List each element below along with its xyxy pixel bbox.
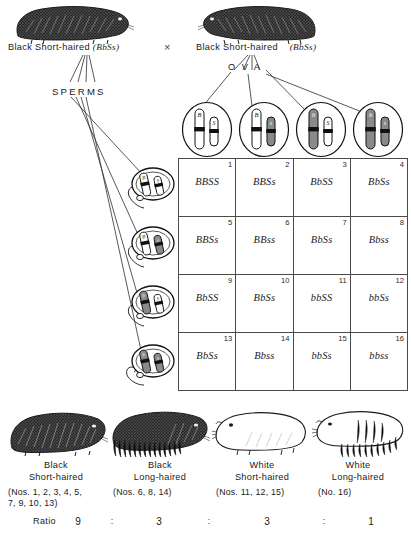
parent-male-label: Black Short-haired (BbSs) [8,42,119,53]
sperms-label: SPERMS [52,86,106,97]
punnett-cell[interactable]: 3BbSS [294,159,351,217]
cell-genotype: BbSS [179,292,235,303]
punnett-cell[interactable]: 10BbSs [236,275,293,333]
offspring-illustration-black-long-haired [108,406,210,462]
punnett-cell[interactable]: 11bbSS [294,275,351,333]
offspring-caption-black-long-haired: Black Long-haired [110,460,210,483]
punnett-cell[interactable]: 1BBSS [179,159,236,217]
punnett-cell[interactable]: 7BbSs [294,217,351,275]
offspring-hair: Long-haired [110,472,210,484]
cell-number: 3 [343,160,347,169]
offspring-caption-white-short-haired: White Short-haired [212,460,312,483]
ratio-row: Ratio 9 : 3 : 3 : 1 [0,516,411,532]
svg-text:B: B [198,111,202,118]
cell-genotype: BBSS [179,176,235,187]
chromosome-S: S [209,117,219,146]
parent-male-genotype: (BbSs) [93,42,120,52]
sperm-cell-2: B s [128,219,176,271]
cell-number: 6 [285,218,289,227]
cell-genotype: Bbss [351,234,407,245]
cell-number: 4 [400,160,404,169]
punnett-cell[interactable]: 15bbSs [294,333,351,391]
cell-genotype: BBss [236,234,292,245]
offspring-illustration-black-short-haired [6,406,108,462]
punnett-cell[interactable]: 5BBSs [179,217,236,275]
parent-female-label: Black Short-haired (BbSs) [196,42,316,53]
ratio-value-4: 1 [358,516,384,527]
cell-genotype: BbSs [351,176,407,187]
cell-genotype: bbss [351,350,407,361]
cell-genotype: BbSs [294,234,350,245]
chromosome-s: s [380,117,390,146]
svg-text:S: S [327,120,330,126]
offspring-caption-white-long-haired: White Long-haired [310,460,406,483]
chromosome-B: B [251,109,262,149]
offspring-coat: White [310,460,406,472]
ratio-value-3: 3 [254,516,280,527]
offspring-hair: Short-haired [8,472,104,484]
offspring-hair: Short-haired [212,472,312,484]
ratio-separator-2: : [203,516,215,526]
cell-number: 10 [281,276,289,285]
offspring-illustration-white-short-haired [212,406,312,462]
ova-cell-4: b s [352,101,404,158]
sperm-cell-1: B S [128,160,176,212]
punnett-cell[interactable]: 8Bbss [351,217,408,275]
ova-cell-2: B s [238,101,290,158]
cell-genotype: BbSs [179,350,235,361]
nos-line-2: 7, 9, 10, 13) [8,498,118,509]
ova-cell-3: b S [295,101,347,158]
cell-genotype: bbSS [294,292,350,303]
ratio-label: Ratio [33,516,56,526]
cell-number: 16 [396,334,404,343]
offspring-nos-white-long-haired: (No. 16) [318,487,351,498]
offspring-coat: White [212,460,312,472]
sperm-cell-3: b S [128,278,176,330]
chromosome-S: S [323,117,333,146]
offspring-nos-black-short-haired: (Nos. 1, 2, 3, 4, 5, 7, 9, 10, 13) [8,487,118,509]
offspring-nos-black-long-haired: (Nos. 6, 8, 14) [113,487,172,498]
ratio-value-1: 9 [65,516,91,527]
nos-line-1: (Nos. 1, 2, 3, 4, 5, [8,487,118,498]
chromosome-b: b [365,109,376,149]
punnett-cell[interactable]: 4BbSs [351,159,408,217]
ratio-value-2: 3 [146,516,172,527]
cell-genotype: BBSs [236,176,292,187]
sperm-cell-4: b s [128,337,176,389]
offspring-caption-black-short-haired: Black Short-haired [8,460,104,483]
cell-number: 15 [338,334,346,343]
cell-number: 7 [343,218,347,227]
genetics-punnett-diagram: Black Short-haired (BbSs) × Black Short-… [0,0,411,537]
cell-number: 8 [400,218,404,227]
punnett-cell[interactable]: 12bbSs [351,275,408,333]
punnett-cell[interactable]: 6BBss [236,217,293,275]
chromosome-B: B [194,109,205,149]
svg-text:S: S [213,120,216,126]
punnett-cell[interactable]: 13BbSs [179,333,236,391]
punnett-cell[interactable]: 2BBSs [236,159,293,217]
parent-male-phenotype: Black Short-haired [8,42,90,52]
cross-symbol: × [164,41,170,53]
punnett-cell[interactable]: 14Bbss [236,333,293,391]
cell-genotype: bbSs [351,292,407,303]
cell-genotype: bbSs [294,350,350,361]
cell-genotype: BbSS [294,176,350,187]
svg-text:B: B [255,111,259,118]
cell-number: 14 [281,334,289,343]
offspring-illustration-white-long-haired [312,406,408,462]
cell-genotype: BbSs [236,292,292,303]
ova-label: O V A [228,62,262,72]
chromosome-b: b [308,109,319,149]
cell-genotype: Bbss [236,350,292,361]
cell-number: 13 [224,334,232,343]
punnett-cell[interactable]: 9BbSS [179,275,236,333]
cell-genotype: BBSs [179,234,235,245]
cell-number: 5 [228,218,232,227]
punnett-cell[interactable]: 16bbss [351,333,408,391]
cell-number: 11 [339,276,347,285]
parent-female-phenotype: Black Short-haired [196,42,278,52]
cell-number: 9 [228,276,232,285]
cell-number: 12 [396,276,404,285]
ratio-separator-1: : [106,516,118,526]
ova-cell-1: B S [181,101,233,158]
